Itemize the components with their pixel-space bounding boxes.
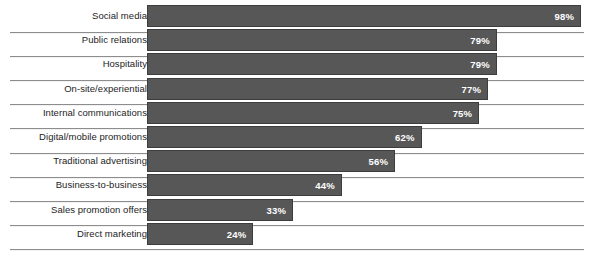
bar: 24% bbox=[147, 223, 253, 245]
table-row: Digital/mobile promotions62% bbox=[0, 125, 596, 149]
bar-track: 56% bbox=[147, 150, 584, 172]
bar-value-label: 44% bbox=[315, 175, 335, 197]
bar-value-label: 77% bbox=[461, 79, 481, 101]
bar: 62% bbox=[147, 126, 422, 148]
bar-value-label: 75% bbox=[453, 103, 473, 125]
bar-value-label: 33% bbox=[267, 200, 287, 222]
bar-value-label: 79% bbox=[470, 54, 490, 76]
category-label: Public relations bbox=[0, 28, 147, 52]
bar-value-label: 62% bbox=[395, 127, 415, 149]
table-row: Social media98% bbox=[0, 4, 596, 28]
table-row: Internal communications75% bbox=[0, 101, 596, 125]
bar-track: 33% bbox=[147, 199, 584, 221]
category-label: Social media bbox=[0, 4, 147, 28]
bar: 98% bbox=[147, 5, 581, 27]
table-row: On-site/experiential77% bbox=[0, 77, 596, 101]
table-row: Traditional advertising56% bbox=[0, 149, 596, 173]
table-row: Hospitality79% bbox=[0, 52, 596, 76]
bar-track: 98% bbox=[147, 5, 584, 27]
bar: 33% bbox=[147, 199, 293, 221]
table-row: Sales promotion offers33% bbox=[0, 198, 596, 222]
bar-rows-container: Social media98%Public relations79%Hospit… bbox=[0, 0, 596, 255]
bar: 56% bbox=[147, 150, 395, 172]
table-row: Public relations79% bbox=[0, 28, 596, 52]
bar: 75% bbox=[147, 102, 479, 124]
bar: 44% bbox=[147, 174, 342, 196]
bar: 79% bbox=[147, 29, 497, 51]
bar-track: 79% bbox=[147, 53, 584, 75]
bar-value-label: 56% bbox=[368, 151, 388, 173]
category-label: Business-to-business bbox=[0, 173, 147, 197]
bar-track: 77% bbox=[147, 78, 584, 100]
horizontal-bar-chart: Social media98%Public relations79%Hospit… bbox=[0, 0, 596, 255]
category-label: Traditional advertising bbox=[0, 149, 147, 173]
table-row: Direct marketing24% bbox=[0, 222, 596, 246]
category-label: Hospitality bbox=[0, 52, 147, 76]
bar-track: 79% bbox=[147, 29, 584, 51]
bar-track: 62% bbox=[147, 126, 584, 148]
bar-value-label: 79% bbox=[470, 30, 490, 52]
category-label: Internal communications bbox=[0, 101, 147, 125]
category-label: Digital/mobile promotions bbox=[0, 125, 147, 149]
bar-value-label: 24% bbox=[227, 224, 247, 246]
table-row: Business-to-business44% bbox=[0, 173, 596, 197]
category-label: Direct marketing bbox=[0, 222, 147, 246]
bar-track: 75% bbox=[147, 102, 584, 124]
bar-value-label: 98% bbox=[555, 6, 575, 28]
bar: 77% bbox=[147, 78, 488, 100]
category-label: Sales promotion offers bbox=[0, 198, 147, 222]
bar: 79% bbox=[147, 53, 497, 75]
bar-track: 24% bbox=[147, 223, 584, 245]
category-label: On-site/experiential bbox=[0, 77, 147, 101]
row-divider bbox=[10, 249, 584, 250]
bar-track: 44% bbox=[147, 174, 584, 196]
